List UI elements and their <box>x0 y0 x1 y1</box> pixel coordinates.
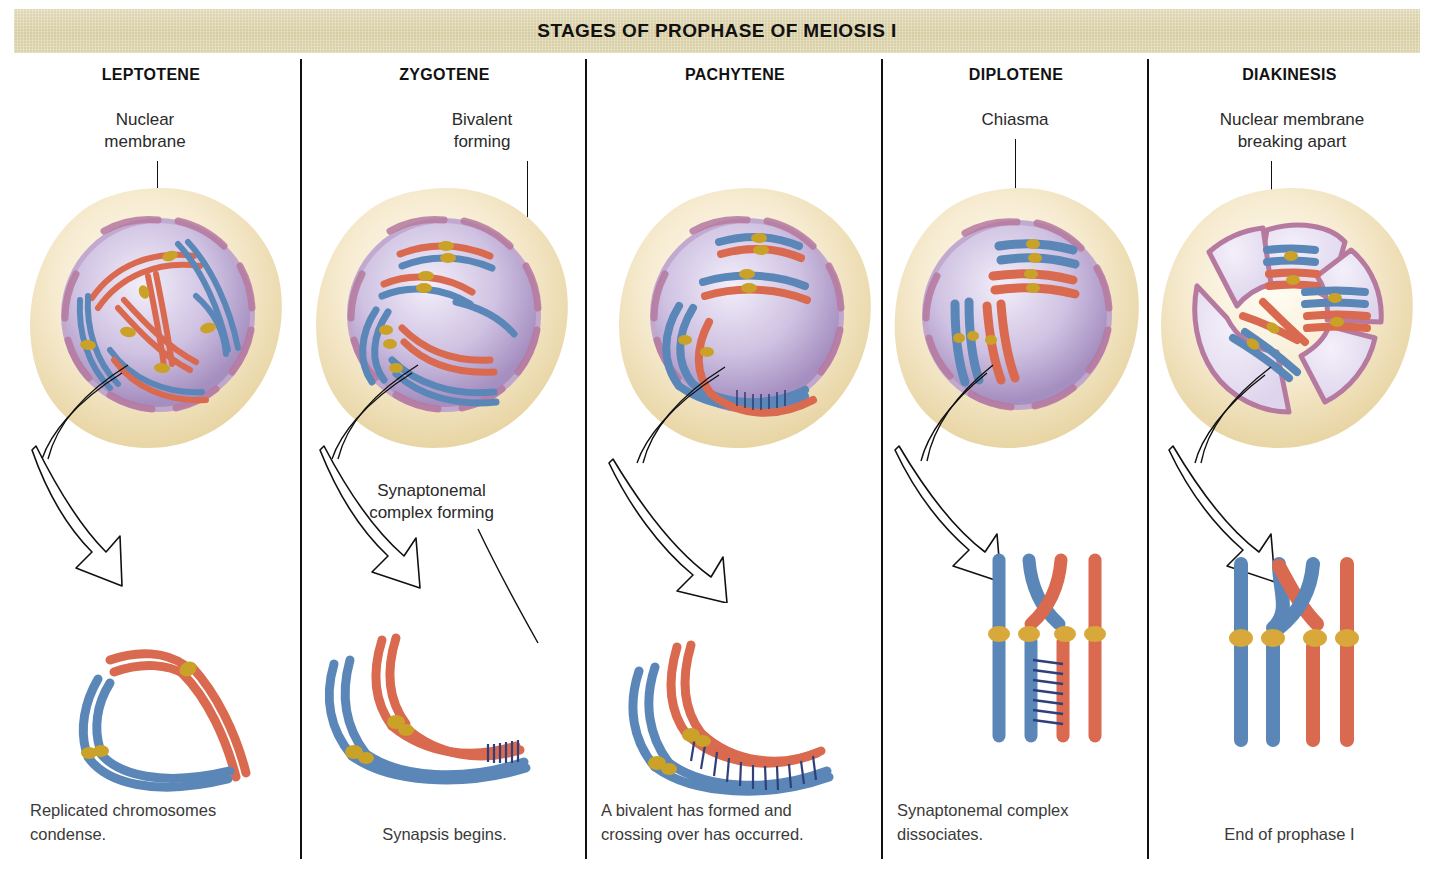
magnify-arrow-zygotene <box>310 440 430 590</box>
chromosome-detail-zygotene <box>320 610 570 790</box>
caption-zygotene: Synapsis begins. <box>302 823 587 847</box>
callout-nuclear-membrane: Nuclear membrane <box>55 109 235 154</box>
caption-diakinesis: End of prophase I <box>1149 823 1430 847</box>
callout-nuclear-membrane-breaking: Nuclear membrane breaking apart <box>1167 109 1417 154</box>
leader-curve-pachytene <box>603 355 743 465</box>
stage-title-leptotene: LEPTOTENE <box>0 66 302 84</box>
chromosome-detail-diplotene <box>975 550 1145 750</box>
stage-column-diakinesis: DIAKINESIS Nuclear membrane breaking apa… <box>1149 55 1430 869</box>
figure-banner: STAGES OF PROPHASE OF MEIOSIS I <box>14 9 1420 53</box>
meiosis-prophase-figure: STAGES OF PROPHASE OF MEIOSIS I LEPTOTEN… <box>0 0 1430 869</box>
stage-title-diakinesis: DIAKINESIS <box>1149 66 1430 84</box>
stage-column-leptotene: LEPTOTENE Nuclear membrane <box>0 55 302 869</box>
chromosome-detail-diakinesis <box>1217 550 1397 750</box>
caption-pachytene: A bivalent has formed and crossing over … <box>601 799 883 847</box>
magnify-arrow-pachytene <box>603 453 743 603</box>
stage-columns: LEPTOTENE Nuclear membrane <box>0 55 1430 869</box>
caption-leptotene: Replicated chromosomes condense. <box>30 799 300 847</box>
chromosome-detail-leptotene <box>58 627 288 807</box>
stage-title-diplotene: DIPLOTENE <box>883 66 1149 84</box>
stage-column-pachytene: PACHYTENE <box>587 55 883 869</box>
callout-bivalent-forming: Bivalent forming <box>402 109 562 154</box>
figure-title: STAGES OF PROPHASE OF MEIOSIS I <box>537 20 896 42</box>
magnify-arrow-leptotene <box>22 440 132 590</box>
stage-column-diplotene: DIPLOTENE Chiasma <box>883 55 1149 869</box>
stage-column-zygotene: ZYGOTENE Bivalent forming Synaptonemal c… <box>302 55 587 869</box>
stage-title-pachytene: PACHYTENE <box>587 66 883 84</box>
chromosome-detail-pachytene <box>617 625 867 805</box>
caption-diplotene: Synaptonemal complex dissociates. <box>897 799 1147 847</box>
stage-title-zygotene: ZYGOTENE <box>302 66 587 84</box>
callout-chiasma: Chiasma <box>905 109 1125 131</box>
